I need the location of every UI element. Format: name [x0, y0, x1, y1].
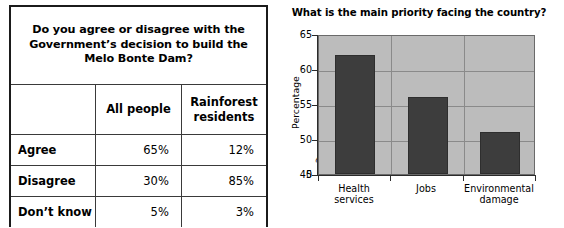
table-row-question: Do you agree or disagree with the Govern… — [10, 6, 267, 85]
x-tick-label: Environmental damage — [463, 183, 535, 206]
row-label-disagree: Disagree — [10, 166, 96, 197]
y-tick-label: 55 — [288, 100, 312, 110]
x-tick-mark — [390, 176, 391, 181]
cell-disagree-rainforest-residents: 85% — [181, 166, 267, 197]
table-corner-cell — [10, 85, 96, 135]
x-tick-mark — [463, 176, 464, 181]
column-header-rainforest-residents: Rainforest residents — [181, 85, 267, 135]
y-tick-mark — [312, 105, 317, 106]
survey-table: Do you agree or disagree with the Govern… — [9, 5, 268, 227]
y-tick-label: 45 — [288, 170, 312, 180]
column-header-all-people: All people — [96, 85, 182, 135]
table-row: Disagree 30% 85% — [10, 166, 267, 197]
chart-title: What is the main priority facing the cou… — [276, 7, 562, 18]
x-tick-mark — [535, 176, 536, 181]
table-row-header: All people Rainforest residents — [10, 85, 267, 135]
cell-dont-know-all-people: 5% — [96, 197, 182, 228]
y-tick-mark — [312, 35, 317, 36]
x-axis-line — [317, 175, 536, 176]
y-tick-label: 60 — [288, 65, 312, 75]
gridline-vertical — [391, 36, 392, 174]
y-tick-label: 50 — [288, 135, 312, 145]
y-tick-mark — [312, 70, 317, 71]
cell-dont-know-rainforest-residents: 3% — [181, 197, 267, 228]
cell-agree-all-people: 65% — [96, 135, 182, 166]
x-tick-mark — [318, 176, 319, 181]
x-tick-label: Jobs — [390, 183, 462, 194]
y-tick-label: 65 — [288, 30, 312, 40]
bar-jobs — [408, 97, 448, 174]
bar-chart-panel: What is the main priority facing the cou… — [276, 2, 562, 225]
table-row: Don’t know 5% 3% — [10, 197, 267, 228]
survey-table-panel: Do you agree or disagree with the Govern… — [9, 5, 268, 222]
cell-agree-rainforest-residents: 12% — [181, 135, 267, 166]
y-tick-mark — [312, 175, 317, 176]
gridline-vertical — [464, 36, 465, 174]
cell-disagree-all-people: 30% — [96, 166, 182, 197]
x-tick-label: Health services — [318, 183, 390, 206]
y-axis-ticks: 0 45 50 55 60 65 — [284, 2, 312, 225]
bar-health-services — [335, 55, 375, 174]
row-label-dont-know: Don’t know — [10, 197, 96, 228]
survey-question: Do you agree or disagree with the Govern… — [10, 6, 267, 85]
row-label-agree: Agree — [10, 135, 96, 166]
bar-environmental-damage — [480, 132, 520, 174]
table-row: Agree 65% 12% — [10, 135, 267, 166]
plot-area — [318, 35, 535, 175]
plot-area-wrapper — [318, 35, 535, 175]
screenshot-root: Do you agree or disagree with the Govern… — [0, 0, 564, 227]
y-tick-mark — [312, 140, 317, 141]
